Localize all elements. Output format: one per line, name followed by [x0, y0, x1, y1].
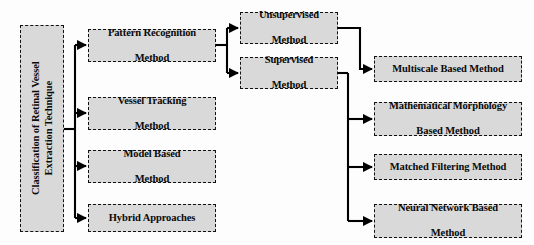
- hybrid-approaches-label: Hybrid Approaches: [92, 212, 212, 224]
- mathematical-morphology-line1: Mathematical Morphology: [378, 100, 518, 112]
- neural-network-line2: Method: [378, 227, 518, 239]
- multiscale-label: Multiscale Based Method: [378, 63, 518, 75]
- node-supervised-method[interactable]: Supervised Method: [240, 57, 338, 89]
- neural-network-line1: Neural Network Based: [378, 202, 518, 214]
- root-label-line1: Classification of Retinal Vessel: [29, 62, 42, 196]
- root-label-line2: Extraction Technique: [42, 62, 55, 196]
- unsupervised-line2: Method: [244, 34, 334, 46]
- node-unsupervised-method[interactable]: Unsupervised Method: [240, 12, 338, 44]
- unsupervised-line1: Unsupervised: [244, 9, 334, 21]
- model-based-line1: Model Based: [92, 148, 212, 160]
- node-neural-network-based-method[interactable]: Neural Network Based Method: [374, 204, 522, 238]
- node-mathematical-morphology-based-method[interactable]: Mathematical Morphology Based Method: [374, 102, 522, 136]
- node-multiscale-based-method[interactable]: Multiscale Based Method: [374, 56, 522, 82]
- node-matched-filtering-method[interactable]: Matched Filtering Method: [374, 154, 522, 180]
- supervised-line1: Supervised: [244, 54, 334, 66]
- node-hybrid-approaches[interactable]: Hybrid Approaches: [88, 204, 216, 232]
- node-classification-root-label: Classification of Retinal Vessel Extract…: [29, 62, 55, 196]
- node-pattern-recognition-method[interactable]: Pattern Recognition Method: [88, 29, 216, 62]
- node-classification-root[interactable]: Classification of Retinal Vessel Extract…: [20, 25, 64, 232]
- pattern-recognition-line1: Pattern Recognition: [92, 27, 212, 39]
- diagram-canvas: Classification of Retinal Vessel Extract…: [0, 0, 534, 245]
- vessel-tracking-line2: Method: [92, 120, 212, 132]
- vessel-tracking-line1: Vessel Tracking: [92, 95, 212, 107]
- supervised-line2: Method: [244, 79, 334, 91]
- wire-unsupervised-to-multiscale: [338, 28, 372, 69]
- model-based-line2: Method: [92, 173, 212, 185]
- matched-filtering-label: Matched Filtering Method: [378, 161, 518, 173]
- node-vessel-tracking-method[interactable]: Vessel Tracking Method: [88, 97, 216, 130]
- node-model-based-method[interactable]: Model Based Method: [88, 150, 216, 183]
- pattern-recognition-line2: Method: [92, 52, 212, 64]
- mathematical-morphology-line2: Based Method: [378, 125, 518, 137]
